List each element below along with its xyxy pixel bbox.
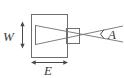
width-dimension-arrow [20,22,24,49]
extent-arrowhead-right [63,60,68,64]
diagram-canvas: W E A [0,0,124,78]
angle-label: A [107,27,116,42]
beam-geometry-diagram: W E A [0,0,124,78]
source-body-rectangle [32,15,68,58]
extent-label: E [43,63,52,78]
width-label: W [3,29,15,44]
width-arrowhead-top [20,22,24,27]
width-arrowhead-bottom [20,44,24,49]
extent-arrowhead-left [31,60,36,64]
